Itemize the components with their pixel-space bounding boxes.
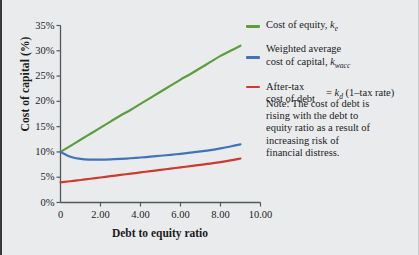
- x-tick-label: 8.00: [201, 210, 241, 220]
- x-axis-title: Debt to equity ratio: [60, 227, 260, 239]
- legend-text-line2: cost of capital,: [266, 56, 330, 67]
- chart-stage: 0%5%10%15%20%25%30%35% 02.004.006.008.00…: [2, 0, 419, 255]
- legend-swatch-cost-of-equity: [246, 25, 260, 28]
- x-tick-label: 10.00: [241, 210, 281, 220]
- legend-label-wacc-line2: cost of capital, kwacc: [266, 56, 416, 72]
- legend-item-wacc: Weighted average cost of capital, kwacc: [266, 43, 416, 72]
- y-tick-label: 0%: [21, 198, 55, 208]
- chart-line-4472b8: [61, 144, 241, 159]
- x-tick-label: 0: [41, 210, 81, 220]
- x-tick-label: 6.00: [161, 210, 201, 220]
- y-axis-title: Cost of capital (%): [19, 9, 31, 159]
- legend-swatch-after-tax-cost-of-debt: [246, 86, 260, 89]
- chart-line-cc3b2e: [61, 159, 241, 183]
- y-tick-label: 5%: [21, 172, 55, 182]
- legend-text-line1: Cost of equity,: [266, 19, 330, 30]
- legend-equation-suffix: (1–tax rate): [343, 87, 394, 98]
- chart-line-5a9e3d: [61, 46, 241, 152]
- figure-frame: 0%5%10%15%20%25%30%35% 02.004.006.008.00…: [0, 0, 419, 255]
- chart-note: Note: The cost of debt is rising with th…: [266, 98, 372, 159]
- legend-item-cost-of-equity: Cost of equity, ke: [266, 19, 416, 35]
- x-tick-label: 4.00: [121, 210, 161, 220]
- legend-subscript: wacc: [335, 61, 350, 70]
- legend-subscript: e: [335, 24, 338, 33]
- x-tick-label: 2.00: [81, 210, 121, 220]
- chart-series-layer: [61, 46, 241, 183]
- legend-equation-prefix: =: [326, 87, 335, 98]
- legend-swatch-wacc: [246, 56, 260, 59]
- legend-label-cost-of-equity: Cost of equity, ke: [266, 19, 416, 35]
- legend-label-wacc-line1: Weighted average: [266, 43, 416, 55]
